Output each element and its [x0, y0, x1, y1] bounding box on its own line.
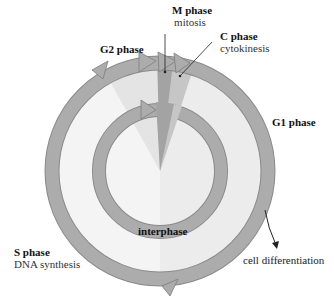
g2-phase-label: G2 phase — [100, 43, 144, 55]
s-phase-desc: DNA synthesis — [14, 258, 80, 270]
m-phase-label: M phase mitosis — [172, 4, 208, 28]
m-phase-desc: mitosis — [174, 16, 206, 28]
arrow-icon — [272, 241, 279, 249]
interphase-label: interphase — [138, 225, 188, 237]
s-phase-label: S phase DNA synthesis — [14, 246, 80, 270]
m-phase-name: M phase — [172, 4, 212, 16]
cell-differentiation-label: cell differentiation — [243, 254, 324, 266]
s-phase-name: S phase — [14, 246, 50, 258]
c-phase-name: C phase — [220, 30, 258, 42]
c-phase-desc: cytokinesis — [220, 42, 270, 54]
g1-phase-label: G1 phase — [272, 116, 316, 128]
c-phase-label: C phase cytokinesis — [220, 30, 270, 54]
